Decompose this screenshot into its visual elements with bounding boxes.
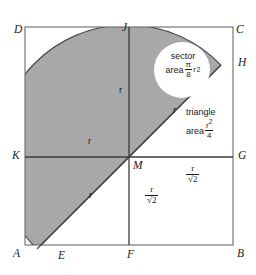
triangle-callout-title: triangle	[186, 108, 248, 117]
vertex-label-M: M	[133, 160, 143, 172]
vertex-label-F: F	[127, 249, 134, 261]
radius-label-vertical: r	[119, 85, 122, 95]
radius-label-diagonal-upper: r	[173, 105, 176, 115]
triangle-callout-formula: area r2 4	[186, 122, 213, 141]
vertex-label-B: B	[237, 248, 244, 260]
vertex-label-D: D	[14, 24, 22, 36]
vertex-label-E: E	[58, 250, 65, 262]
sector-callout-variable: r	[193, 66, 196, 74]
vertex-label-G: G	[238, 150, 246, 162]
segment-horizontal-denominator: √2	[186, 174, 199, 185]
sector-area-callout: sector area π 8 r2	[152, 52, 214, 80]
sector-callout-fraction: π 8	[185, 61, 193, 80]
vertex-label-K: K	[12, 150, 20, 162]
segment-label-horizontal: r √2	[186, 164, 199, 184]
vertex-label-A: A	[13, 248, 20, 260]
triangle-numerator-exponent: 2	[209, 118, 213, 125]
radius-label-diagonal-lower: r	[89, 190, 92, 200]
triangle-callout-fraction: r2 4	[205, 122, 213, 141]
triangle-callout-denominator: 4	[205, 130, 213, 140]
segment-label-vertical: r √2	[145, 185, 158, 205]
vertex-label-H: H	[238, 57, 246, 69]
vertex-label-J: J	[122, 22, 127, 34]
triangle-area-callout: triangle area r2 4	[186, 108, 248, 141]
vertex-label-C: C	[236, 24, 244, 36]
sector-callout-area-word: area	[166, 66, 184, 75]
sector-callout-denominator: 8	[185, 69, 193, 79]
segment-vertical-denominator: √2	[145, 195, 158, 206]
sector-callout-formula: area π 8 r2	[166, 61, 201, 80]
geometry-figure: D J C H K M G A E F B r r r r sector are…	[0, 0, 256, 275]
radius-label-horizontal: r	[88, 136, 91, 146]
segment-horizontal-numerator: r	[186, 164, 199, 174]
triangle-callout-numerator: r2	[205, 122, 213, 130]
triangle-callout-area-word: area	[186, 127, 204, 136]
segment-vertical-numerator: r	[145, 185, 158, 195]
sector-callout-numerator: π	[185, 61, 193, 69]
sector-callout-title: sector	[152, 52, 214, 61]
